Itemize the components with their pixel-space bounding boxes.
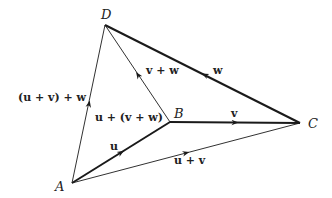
point-label-a: A	[54, 179, 64, 194]
edge-b-c	[170, 122, 300, 123]
vector-label-v-plus-w: v + w	[145, 64, 179, 77]
vector-label-v: v	[230, 107, 238, 120]
edge-a-c	[72, 123, 300, 183]
point-label-c: C	[308, 116, 318, 131]
point-label-d: D	[100, 7, 112, 22]
vector-label-w: w	[212, 64, 223, 77]
edge-a-d	[72, 25, 105, 183]
point-label-b: B	[173, 106, 184, 121]
vector-diagram: D A B C u v w u + v v + w (u + v) + w u …	[0, 0, 332, 198]
vector-label-sum-right: u + (v + w)	[95, 111, 163, 124]
vector-label-u-plus-v: u + v	[174, 154, 206, 167]
vector-label-sum-left: (u + v) + w	[18, 91, 87, 104]
edge-a-b	[72, 122, 170, 183]
vector-label-u: u	[110, 140, 118, 153]
edge-c-d	[105, 25, 300, 123]
